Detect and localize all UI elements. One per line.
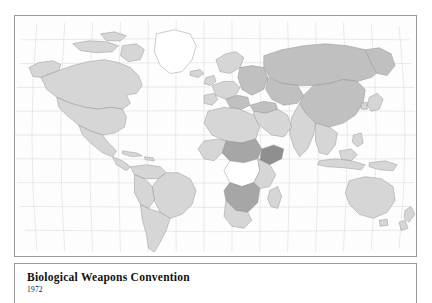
figure-caption-box: Biological Weapons Convention 1972	[14, 263, 417, 303]
region-tasmania	[379, 219, 388, 226]
world-map	[15, 16, 416, 256]
world-map-frame	[14, 15, 417, 257]
figure-year: 1972	[27, 285, 416, 295]
region-antarctic-edge	[15, 252, 416, 256]
figure-title: Biological Weapons Convention	[27, 271, 416, 284]
region-korea	[361, 102, 367, 109]
region-russia	[264, 44, 381, 86]
